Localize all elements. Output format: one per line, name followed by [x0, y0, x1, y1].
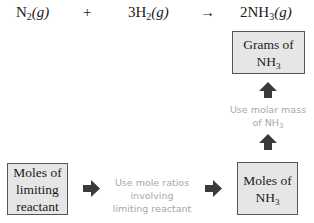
note-line: Use molar mass	[220, 103, 314, 116]
reactant-h2: 3H2(g)	[128, 4, 169, 21]
mole-ratios-note: Use mole ratios involving limiting react…	[108, 176, 196, 215]
coefficient: 3	[128, 4, 136, 20]
grams-nh3-box: Grams of NH3	[232, 31, 305, 74]
symbol: NH	[248, 4, 270, 20]
state: (g)	[32, 4, 50, 20]
molar-mass-note: Use molar mass of NH3	[220, 103, 314, 129]
arrow-right-icon	[205, 180, 222, 197]
arrow-right-icon	[83, 180, 100, 197]
box-label: NH3	[243, 53, 294, 70]
note-line: involving	[108, 189, 196, 202]
reaction-arrow: →	[200, 4, 215, 21]
box-label: reactant	[13, 198, 61, 215]
reactant-n2: N2(g)	[16, 4, 49, 21]
symbol: N	[16, 4, 27, 20]
state: (g)	[274, 4, 292, 20]
arrow-up-icon	[259, 134, 277, 150]
box-label: Grams of	[243, 36, 294, 53]
moles-nh3-box: Moles of NH3	[237, 162, 298, 215]
note-line: Use mole ratios	[108, 176, 196, 189]
box-label: Moles of	[13, 164, 61, 181]
state: (g)	[151, 4, 169, 20]
plus-sign: +	[83, 4, 91, 21]
moles-limiting-reactant-box: Moles of limiting reactant	[7, 163, 68, 215]
product-nh3: 2NH3(g)	[240, 4, 292, 21]
note-line: limiting reactant	[108, 202, 196, 215]
symbol: H	[136, 4, 147, 20]
box-label: Moles of	[243, 172, 291, 189]
note-line: of NH3	[220, 116, 314, 129]
coefficient: 2	[240, 4, 248, 20]
box-label: NH3	[243, 189, 291, 206]
box-label: limiting	[13, 181, 61, 198]
arrow-up-icon	[259, 82, 277, 98]
